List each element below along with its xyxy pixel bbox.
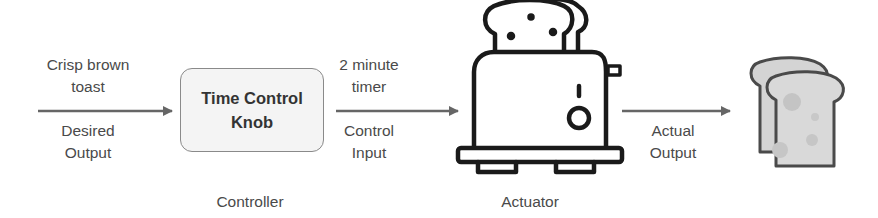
- label-line: Control: [326, 120, 412, 142]
- actuator-caption: Actuator: [480, 191, 580, 213]
- label-line: Actual: [628, 120, 718, 142]
- label-line: Crisp brown: [28, 54, 148, 76]
- controller-caption: Controller: [190, 191, 310, 213]
- box-line: Time Control: [201, 86, 302, 110]
- label-line: Input: [326, 142, 412, 164]
- desired-output-label: Desired Output: [28, 120, 148, 164]
- toaster-icon: [458, 0, 622, 172]
- control-input-value-label: 2 minute timer: [326, 54, 412, 98]
- actual-output-label: Actual Output: [628, 120, 718, 164]
- desired-output-value-label: Crisp brown toast: [28, 54, 148, 98]
- label-line: timer: [326, 76, 412, 98]
- control-input-label: Control Input: [326, 120, 412, 164]
- label-line: Desired: [28, 120, 148, 142]
- toast-slices-icon: [751, 58, 843, 166]
- diagram-graphics: [0, 0, 878, 218]
- label-line: Output: [628, 142, 718, 164]
- label-line: Output: [28, 142, 148, 164]
- box-line: Knob: [201, 110, 302, 134]
- controller-box: Time Control Knob: [180, 68, 324, 152]
- label-line: 2 minute: [326, 54, 412, 76]
- label-line: toast: [28, 76, 148, 98]
